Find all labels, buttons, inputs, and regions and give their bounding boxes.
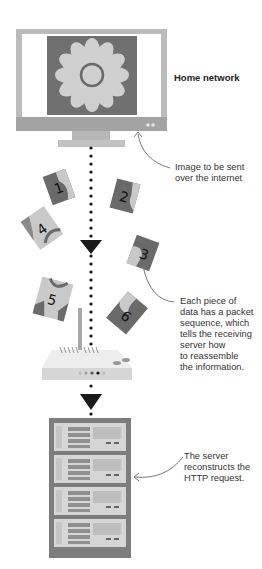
arrow-down-icon	[80, 240, 102, 254]
server-rack-icon	[49, 418, 131, 558]
label-line: Image to be sent	[175, 162, 244, 173]
label-line: to reassemble	[180, 351, 253, 362]
label-line: HTTP request.	[184, 473, 250, 484]
packet-4: 4	[21, 206, 63, 250]
label-line: the information.	[180, 362, 253, 373]
arrow-down-icon	[80, 394, 102, 410]
label-line: Each piece of	[180, 296, 253, 307]
packet-6: 6	[106, 292, 148, 335]
label-line: reconstructs the	[184, 462, 250, 473]
label-line: over the internet	[175, 173, 244, 184]
packet-2: 2	[110, 178, 141, 213]
label-line: tells the receiving	[180, 329, 253, 340]
flower-image	[47, 36, 137, 115]
packet-5: 5	[33, 277, 74, 322]
packet-sequence-label: Each piece of data has a packet sequence…	[180, 296, 253, 373]
packet-1: 1	[43, 169, 76, 205]
image-sent-label: Image to be sent over the internet	[175, 162, 244, 184]
server-unit	[54, 487, 126, 515]
server-unit	[54, 455, 126, 483]
label-line: The server	[184, 451, 250, 462]
callout-line-packet	[143, 266, 174, 302]
home-network-label: Home network	[174, 72, 239, 83]
label-line: data has a packet	[180, 307, 253, 318]
callout-line-server	[135, 457, 183, 477]
label-line: server how	[180, 340, 253, 351]
server-unit	[54, 423, 126, 451]
label-line: sequence, which	[180, 318, 253, 329]
server-unit	[54, 519, 126, 547]
packet-3: 3	[127, 235, 160, 271]
callout-line-image	[138, 134, 170, 168]
server-reconstructs-label: The server reconstructs the HTTP request…	[184, 451, 250, 484]
